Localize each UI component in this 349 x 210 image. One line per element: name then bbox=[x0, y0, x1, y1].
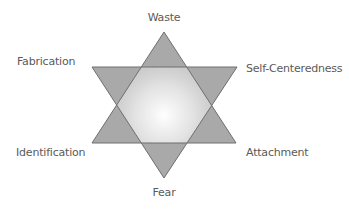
label-waste: Waste bbox=[148, 11, 181, 24]
label-self-centeredness: Self-Centeredness bbox=[246, 62, 342, 75]
label-fear: Fear bbox=[153, 186, 176, 199]
hexagram-diagram bbox=[0, 0, 349, 210]
label-identification: Identification bbox=[16, 146, 85, 159]
label-fabrication: Fabrication bbox=[17, 55, 75, 68]
label-attachment: Attachment bbox=[246, 146, 309, 159]
